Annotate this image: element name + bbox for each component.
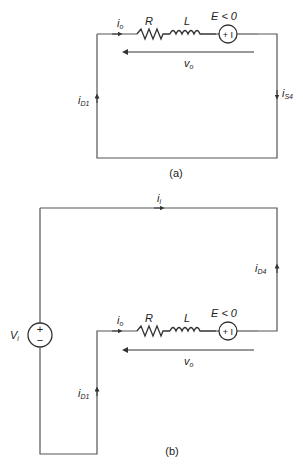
resistor-icon [137,326,170,336]
circuit-b [28,208,277,454]
source-polarity-b: + I [223,327,233,337]
label-id4-b: iD4 [255,262,267,275]
circuit-diagram: io R L E < 0 + I vo iD1 iS4 (a) ii iD4 V… [0,0,303,468]
label-ii-b: ii [157,192,161,205]
label-vo-b: vo [184,355,194,368]
label-id1-b: iD1 [78,387,90,400]
caption-b: (b) [165,445,178,457]
label-e-a: E < 0 [211,10,238,22]
inductor-icon [170,31,216,35]
label-e-b: E < 0 [211,307,238,319]
label-is4-a: iS4 [282,87,293,100]
label-l-a: L [184,15,190,27]
label-io-b: io [117,314,123,327]
caption-a: (a) [169,167,182,179]
label-r-b: R [145,312,153,324]
label-id1-a: iD1 [78,94,90,107]
vi-minus: − [37,334,43,346]
resistor-icon [137,29,170,39]
label-io-a: io [117,17,123,30]
label-vo-a: vo [184,57,194,70]
circuit-a [97,25,277,158]
inductor-icon [170,328,216,332]
source-polarity-a: + I [223,30,233,40]
label-vi-b: Vi [10,329,19,342]
label-r-a: R [145,15,153,27]
label-l-b: L [184,312,190,324]
